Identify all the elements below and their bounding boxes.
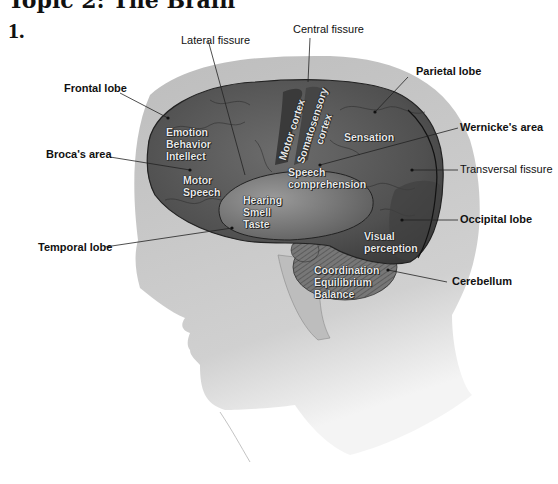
- label-brocas-area: Broca's area: [46, 148, 112, 160]
- label-wernickes-area: Wernicke's area: [460, 121, 543, 133]
- label-lateral-fissure: Lateral fissure: [181, 34, 250, 46]
- label-transversal-fissure: Transversal fissure: [460, 163, 553, 175]
- label-frontal-lobe: Frontal lobe: [64, 82, 127, 94]
- region-temporal-functions: Hearing Smell Taste: [243, 194, 282, 230]
- label-occipital-lobe: Occipital lobe: [460, 213, 532, 225]
- label-central-fissure: Central fissure: [293, 23, 364, 35]
- region-sensation: Sensation: [344, 131, 394, 143]
- region-speech-comprehension: Speech comprehension: [288, 166, 366, 190]
- region-broca-functions: Motor Speech: [183, 174, 220, 198]
- label-parietal-lobe: Parietal lobe: [416, 65, 481, 77]
- region-cerebellum-functions: Coordination Equilibrium Balance: [314, 264, 379, 300]
- region-frontal-functions: Emotion Behavior Intellect: [166, 126, 211, 162]
- label-cerebellum: Cerebellum: [452, 275, 512, 287]
- label-temporal-lobe: Temporal lobe: [38, 241, 112, 253]
- region-visual-perception: Visual perception: [364, 230, 418, 254]
